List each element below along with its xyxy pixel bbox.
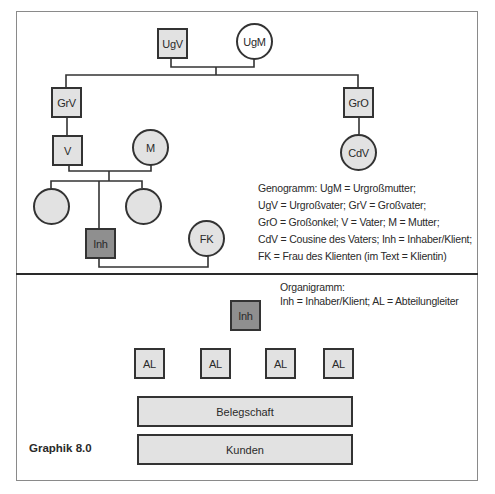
org-bar-customers: Kunden <box>137 434 353 465</box>
org-node-department-head: AL <box>323 348 354 379</box>
node-gro-label: GrO <box>349 97 369 109</box>
genogram-legend-line: FK = Frau des Klienten (im Text = Klient… <box>258 248 472 265</box>
org-bar-customers-label: Kunden <box>226 444 264 456</box>
node-cdv-label: CdV <box>348 147 369 159</box>
genogram-legend-line: UgV = Urgroßvater; GrV = Großvater; <box>258 197 472 214</box>
genogram-legend-line: Genogramm: UgM = Urgroßmutter; <box>258 180 472 197</box>
org-node-department-head: AL <box>200 348 231 379</box>
genogram-legend-line: CdV = Cousine des Vaters; Inh = Inhaber/… <box>258 231 472 248</box>
node-gro: GrO <box>343 87 374 118</box>
org-node-department-head-label: AL <box>209 358 222 370</box>
organigram-legend-title: Organigramm: <box>280 280 459 294</box>
org-node-department-head: AL <box>265 348 296 379</box>
genogram-legend-line: GrO = Großonkel; V = Vater; M = Mutter; <box>258 214 472 231</box>
node-sibling-left <box>33 188 70 225</box>
org-node-department-head-label: AL <box>274 358 287 370</box>
node-v-label: V <box>64 145 71 157</box>
org-node-department-head-label: AL <box>332 358 345 370</box>
organigram-legend: Organigramm: Inh = Inhaber/Klient; AL = … <box>280 280 459 308</box>
node-ugv-label: UgV <box>162 38 183 50</box>
node-ugm-label: UgM <box>243 36 265 48</box>
org-bar-staff: Belegschaft <box>137 396 353 427</box>
node-fk: FK <box>188 220 225 257</box>
organigram-legend-line: Inh = Inhaber/Klient; AL = Abteilungleit… <box>280 294 459 308</box>
node-cdv: CdV <box>340 134 377 171</box>
node-inh-label: Inh <box>93 238 107 250</box>
node-grv: GrV <box>51 87 82 118</box>
org-node-department-head-label: AL <box>143 358 156 370</box>
org-node-owner-label: Inh <box>238 310 252 322</box>
node-v: V <box>52 135 83 166</box>
node-m: M <box>132 129 169 166</box>
genogram-legend: Genogramm: UgM = Urgroßmutter; UgV = Urg… <box>258 180 472 265</box>
node-ugv: UgV <box>157 28 188 59</box>
org-bar-staff-label: Belegschaft <box>216 406 273 418</box>
node-grv-label: GrV <box>57 97 76 109</box>
node-inh: Inh <box>85 228 116 259</box>
org-node-owner: Inh <box>230 300 261 331</box>
node-ugm: UgM <box>236 23 273 60</box>
node-m-label: M <box>146 142 155 154</box>
figure-caption: Graphik 8.0 <box>29 442 92 454</box>
org-node-department-head: AL <box>134 348 165 379</box>
node-fk-label: FK <box>200 233 213 245</box>
node-sibling-right <box>125 188 162 225</box>
